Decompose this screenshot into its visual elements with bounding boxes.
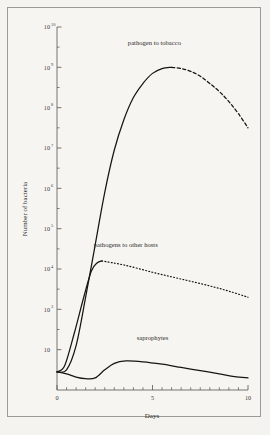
y-tick-exponent: 4 [51,264,54,269]
y-tick-label: 10 [44,23,50,30]
x-tick-label: 0 [55,394,58,401]
y-tick-exponent: 5 [51,223,54,228]
y-axis-ticks [57,27,62,350]
y-tick-label: 10 [44,104,50,111]
y-tick-exponent: 10 [51,22,56,27]
y-axis-tick-labels: 101010910810710610510410310 [44,22,56,353]
y-tick-label: 10 [44,306,50,313]
y-axis-title: Number of bacteria [21,181,29,236]
x-axis-ticks [57,385,248,390]
y-tick-label: 10 [44,346,50,353]
y-tick-label: 10 [44,144,50,151]
figure-container: 101010910810710610510410310 0510 pathoge… [0,0,270,435]
y-tick-label: 10 [44,64,50,71]
y-tick-label: 10 [44,185,50,192]
curve-pathogen-to-tobacco-dashed [172,67,248,128]
y-tick-exponent: 8 [51,102,54,107]
x-axis-tick-labels: 0510 [55,394,251,401]
plot-area: 101010910810710610510410310 0510 pathoge… [0,0,270,435]
curve-label: saprophytes [137,334,169,341]
y-tick-label: 10 [44,225,50,232]
curve-label: pathogen to tobacco [128,39,182,46]
y-tick-exponent: 9 [51,62,54,67]
y-tick-exponent: 6 [51,183,54,188]
curve-pathogens-to-other-hosts-solid [57,261,102,372]
curve-pathogen-to-tobacco-solid [57,67,172,372]
curve-annotations: pathogen to tobaccopathogens to other ho… [94,39,182,340]
curve-pathogens-to-other-hosts-dotted [102,261,248,297]
x-tick-label: 5 [151,394,154,401]
curve-label: pathogens to other hosts [94,241,158,248]
x-tick-label: 10 [245,394,251,401]
x-axis-title: Days [145,412,160,420]
y-tick-label: 10 [44,265,50,272]
y-tick-exponent: 7 [51,143,54,148]
data-series-group [57,67,248,379]
curve-saprophytes-solid [57,361,248,379]
y-tick-exponent: 3 [51,304,54,309]
